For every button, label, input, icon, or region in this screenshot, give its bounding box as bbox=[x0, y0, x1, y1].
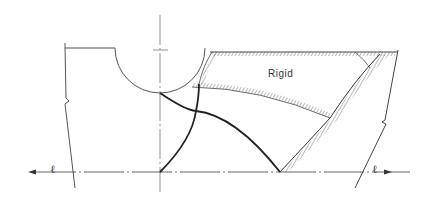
hatch-top bbox=[212, 52, 395, 56]
diagram-canvas: Rigid ℓ ℓ bbox=[0, 0, 425, 203]
horizontal-centerline bbox=[28, 170, 410, 175]
left-boundary bbox=[65, 43, 115, 188]
arrow-right-icon bbox=[384, 170, 392, 175]
centerline-label-left: ℓ bbox=[50, 163, 55, 176]
arrow-left-icon bbox=[28, 170, 36, 175]
slip-lines bbox=[160, 84, 280, 172]
diagram-svg bbox=[0, 0, 425, 203]
centerline-label-right: ℓ bbox=[372, 163, 377, 176]
rigid-label: Rigid bbox=[268, 68, 293, 79]
